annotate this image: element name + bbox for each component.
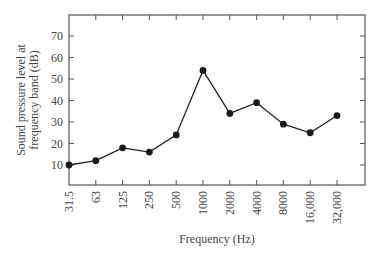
x-tick-label: 63 — [89, 191, 103, 203]
plot-border — [69, 15, 365, 185]
x-tick-label: 4000 — [250, 191, 264, 215]
data-point — [200, 67, 207, 74]
y-tick-label: 50 — [51, 72, 63, 86]
series-line — [69, 70, 337, 165]
x-tick-label: 125 — [116, 191, 130, 209]
x-tick-label: 31.5 — [62, 191, 76, 212]
y-tick-label: 30 — [51, 115, 63, 129]
x-axis: 31.563125250500100020004000800016,00032,… — [62, 15, 344, 224]
y-tick-label: 70 — [51, 29, 63, 43]
line-chart: 10203040506070 31.5631252505001000200040… — [0, 0, 377, 256]
data-point — [280, 121, 287, 128]
y-tick-label: 20 — [51, 137, 63, 151]
x-tick-label: 2000 — [223, 191, 237, 215]
y-axis-title: Sound pressure level atfrequency band (d… — [14, 44, 41, 156]
x-tick-label: 16,000 — [303, 191, 317, 224]
data-point — [119, 144, 126, 151]
data-point — [307, 129, 314, 136]
data-point — [253, 99, 260, 106]
x-tick-label: 1000 — [196, 191, 210, 215]
y-axis-title-line: Sound pressure level at — [14, 44, 28, 156]
plot-frame — [69, 15, 365, 185]
data-series — [66, 67, 341, 168]
data-point — [146, 149, 153, 156]
y-tick-label: 60 — [51, 51, 63, 65]
data-point — [226, 110, 233, 117]
data-point — [173, 132, 180, 139]
x-tick-label: 250 — [142, 191, 156, 209]
x-tick-label: 500 — [169, 191, 183, 209]
y-axis: 10203040506070 — [51, 29, 365, 172]
x-axis-title: Frequency (Hz) — [179, 232, 255, 246]
x-tick-label: 8000 — [276, 191, 290, 215]
x-tick-label: 32,000 — [330, 191, 344, 224]
data-point — [66, 162, 73, 169]
y-axis-title-line: frequency band (dB) — [27, 50, 41, 149]
y-tick-label: 10 — [51, 158, 63, 172]
data-point — [92, 157, 99, 164]
y-tick-label: 40 — [51, 94, 63, 108]
data-point — [334, 112, 341, 119]
